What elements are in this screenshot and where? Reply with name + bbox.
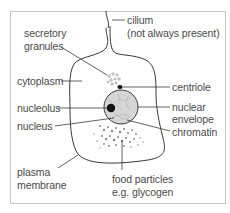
label-centriole: centriole (172, 81, 211, 93)
label-chromatin: chromatin (172, 126, 217, 138)
food-particles-icon (93, 125, 143, 149)
label-nucleolus: nucleolus (17, 102, 60, 114)
label-plasma-membrane-2: membrane (17, 179, 66, 191)
nucleolus-icon (107, 104, 115, 112)
label-cilium-note: (not always present) (127, 27, 220, 39)
cilium-icon (106, 11, 109, 28)
label-cytoplasm: cytoplasm (17, 75, 63, 87)
label-nucleus: nucleus (17, 120, 53, 132)
secretory-granules-icon (107, 73, 120, 85)
label-nuclear-envelope: nuclear (172, 101, 206, 113)
centriole-icon (117, 85, 122, 89)
label-secretory-granules-2: granules (24, 40, 63, 52)
label-plasma-membrane: plasma (17, 166, 50, 178)
label-food-particles: food particles (112, 173, 173, 185)
label-nuclear-envelope-2: envelope (172, 113, 214, 125)
label-food-particles-2: e.g. glycogen (112, 186, 173, 198)
label-cilium: cilium (127, 14, 153, 26)
label-secretory-granules: secretory (24, 27, 66, 39)
